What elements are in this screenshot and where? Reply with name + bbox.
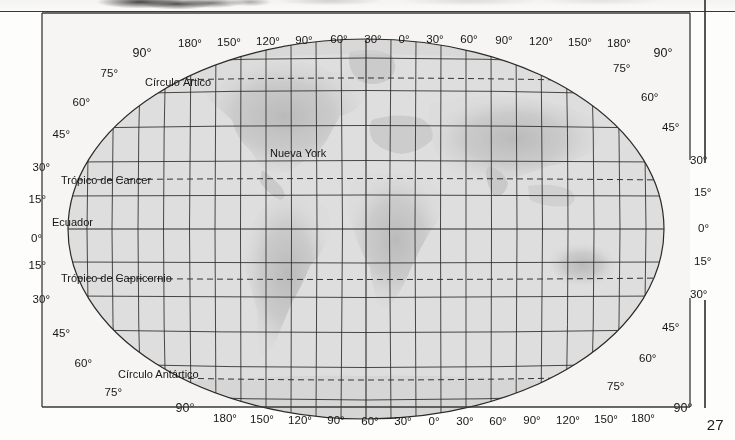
lon-bottom--90: 90° [327, 414, 344, 426]
lon-top-pole-right: 90° [654, 46, 673, 60]
lat-left-45s: 45° [53, 327, 70, 339]
lon-top-pole-left: 90° [133, 46, 152, 60]
lon-bottom-60: 60° [489, 415, 506, 427]
lon-bottom-0: 0° [429, 415, 440, 427]
lon-top--90: 90° [295, 34, 312, 46]
lon-bottom-pole-left: 90° [176, 401, 195, 415]
lon-top-0: 0° [399, 33, 410, 45]
lon-top-60: 60° [460, 33, 477, 45]
lat-left-30: 30° [33, 161, 50, 173]
lon-bottom--150: 150° [250, 413, 274, 425]
lon-top-120: 120° [529, 35, 553, 47]
lat-left-15n: 15° [29, 193, 46, 205]
lat-left-60s: 60° [75, 357, 92, 369]
lat-right-60: 60° [641, 91, 658, 103]
lon-top--120: 120° [256, 35, 280, 47]
lat-left-0: 0° [31, 232, 42, 244]
label-tropic-of-cancer: Trópico de Cancer [61, 174, 151, 186]
lon-top-180: 180° [607, 37, 631, 49]
lon-top--180: 180° [178, 37, 202, 49]
lat-right-30s: 30° [690, 288, 707, 300]
world-map: Círculo Ártico Trópico de Cancer Ecuador… [0, 0, 735, 440]
lon-bottom--60: 60° [361, 415, 378, 427]
lon-bottom--120: 120° [288, 414, 312, 426]
lon-bottom-180: 180° [631, 412, 655, 424]
lat-right-15n: 15° [694, 186, 711, 198]
lon-bottom-120: 120° [556, 414, 580, 426]
lon-bottom--30: 30° [394, 415, 411, 427]
lon-top-150: 150° [568, 36, 592, 48]
label-equator: Ecuador [52, 216, 93, 228]
atlas-page: Círculo Ártico Trópico de Cancer Ecuador… [0, 0, 735, 440]
lat-right-75: 75° [613, 62, 630, 74]
label-nueva-york: Nueva York [270, 147, 327, 159]
lon-top--60: 60° [330, 33, 347, 45]
lon-bottom-30: 30° [456, 415, 473, 427]
lon-bottom-150: 150° [594, 413, 618, 425]
lat-left-75: 75° [101, 67, 118, 79]
lon-bottom-90: 90° [523, 414, 540, 426]
lat-left-60: 60° [73, 96, 90, 108]
page-number: 27 [707, 416, 724, 433]
lat-left-75s: 75° [105, 386, 122, 398]
lon-top--150: 150° [217, 36, 241, 48]
label-tropic-of-capricorn: Trópico de Capricornio [61, 272, 172, 284]
lat-right-45: 45° [662, 121, 679, 133]
lon-top--30: 30° [364, 33, 381, 45]
lat-right-60s: 60° [639, 352, 656, 364]
lat-right-0: 0° [698, 222, 709, 234]
lat-left-45: 45° [53, 128, 70, 140]
lon-top-90: 90° [495, 34, 512, 46]
lon-top-30: 30° [426, 33, 443, 45]
label-arctic-circle: Círculo Ártico [145, 76, 211, 88]
lat-left-15s: 15° [29, 259, 46, 271]
label-antarctic-circle: Círculo Antártico [118, 368, 199, 380]
lat-right-45s: 45° [662, 321, 679, 333]
lat-right-75s: 75° [607, 380, 624, 392]
lon-bottom--180: 180° [213, 412, 237, 424]
lat-left-30s: 30° [33, 293, 50, 305]
lat-right-15s: 15° [694, 255, 711, 267]
